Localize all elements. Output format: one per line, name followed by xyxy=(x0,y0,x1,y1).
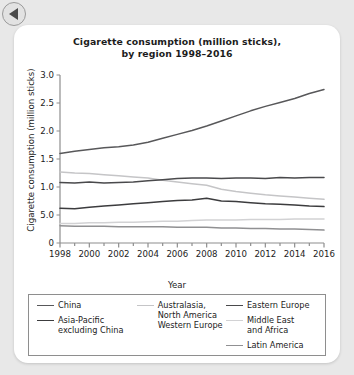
x-tick-label: 2002 xyxy=(108,249,130,259)
legend-item[interactable]: Asia-Pacificexcluding China xyxy=(37,315,137,335)
back-arrow-icon xyxy=(9,8,18,20)
legend-item[interactable]: Latin America xyxy=(226,340,321,350)
legend-item[interactable]: Australasia,North AmericaWestern Europe xyxy=(137,300,226,330)
back-button[interactable] xyxy=(2,2,26,26)
x-tick-label: 2012 xyxy=(254,249,276,259)
legend-color-swatch xyxy=(226,345,243,346)
x-tick-label: 2004 xyxy=(137,249,159,259)
legend-color-swatch xyxy=(37,320,54,321)
legend-color-swatch xyxy=(37,305,54,306)
chart-title-line1: Cigarette consumption (million sticks), xyxy=(32,36,322,48)
legend-item-label: China xyxy=(58,300,81,310)
chart-card: Cigarette consumption (million sticks), … xyxy=(14,25,340,363)
legend-color-swatch xyxy=(226,320,243,321)
legend-item[interactable]: Eastern Europe xyxy=(226,300,321,310)
legend-item-label: Latin America xyxy=(247,340,304,350)
legend-item[interactable]: Middle Eastand Africa xyxy=(226,315,321,335)
x-tick-label: 2008 xyxy=(196,249,218,259)
legend-column-2: Australasia,North AmericaWestern Europe xyxy=(137,300,226,350)
x-tick-label: 2016 xyxy=(313,249,335,259)
x-axis-label: Year xyxy=(14,280,340,290)
legend-item-label: Asia-Pacificexcluding China xyxy=(58,315,123,335)
plot-area: Cigarette consumption (million sticks) 3… xyxy=(14,61,340,279)
x-tick-label: 2014 xyxy=(284,249,306,259)
x-tick-label: 2006 xyxy=(166,249,188,259)
x-axis-ticks: 1998200020022004200620082010201220142016 xyxy=(14,61,340,279)
x-tick-label: 2000 xyxy=(78,249,100,259)
chart-legend: ChinaAsia-Pacificexcluding China Austral… xyxy=(28,294,326,356)
x-tick-label: 2010 xyxy=(225,249,247,259)
chart-title: Cigarette consumption (million sticks), … xyxy=(14,25,340,61)
legend-color-swatch xyxy=(137,305,154,306)
legend-item-label: Australasia,North AmericaWestern Europe xyxy=(158,300,223,330)
legend-item[interactable]: China xyxy=(37,300,137,310)
x-tick-label: 1998 xyxy=(49,249,71,259)
legend-item-label: Eastern Europe xyxy=(247,300,310,310)
legend-column-3: Eastern EuropeMiddle Eastand AfricaLatin… xyxy=(226,300,321,350)
chart-title-line2: by region 1998–2016 xyxy=(32,48,322,60)
legend-column-1: ChinaAsia-Pacificexcluding China xyxy=(33,300,137,350)
legend-color-swatch xyxy=(226,305,243,306)
legend-item-label: Middle Eastand Africa xyxy=(247,315,294,335)
